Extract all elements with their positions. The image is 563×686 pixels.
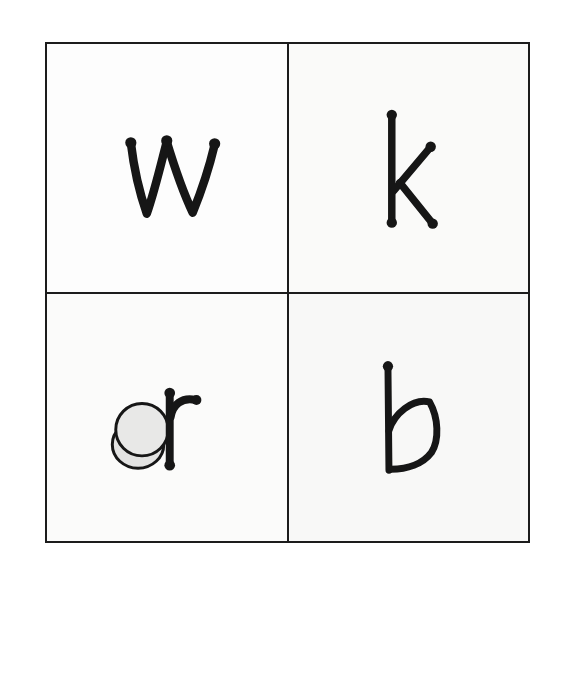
counter-chip-on-r[interactable] bbox=[112, 403, 168, 468]
grid-cell-w[interactable] bbox=[47, 44, 288, 293]
letter-glyph-k bbox=[289, 44, 529, 292]
objects-row bbox=[0, 543, 563, 686]
grid-cell-k[interactable] bbox=[288, 44, 529, 293]
grid-cell-b[interactable] bbox=[288, 293, 529, 542]
letter-glyph-r bbox=[47, 294, 287, 542]
letter-glyph-w bbox=[47, 44, 287, 292]
letter-grid bbox=[45, 42, 530, 543]
letter-glyph-b bbox=[289, 294, 529, 542]
grid-cell-r[interactable] bbox=[47, 293, 288, 542]
worksheet-page bbox=[0, 0, 563, 686]
